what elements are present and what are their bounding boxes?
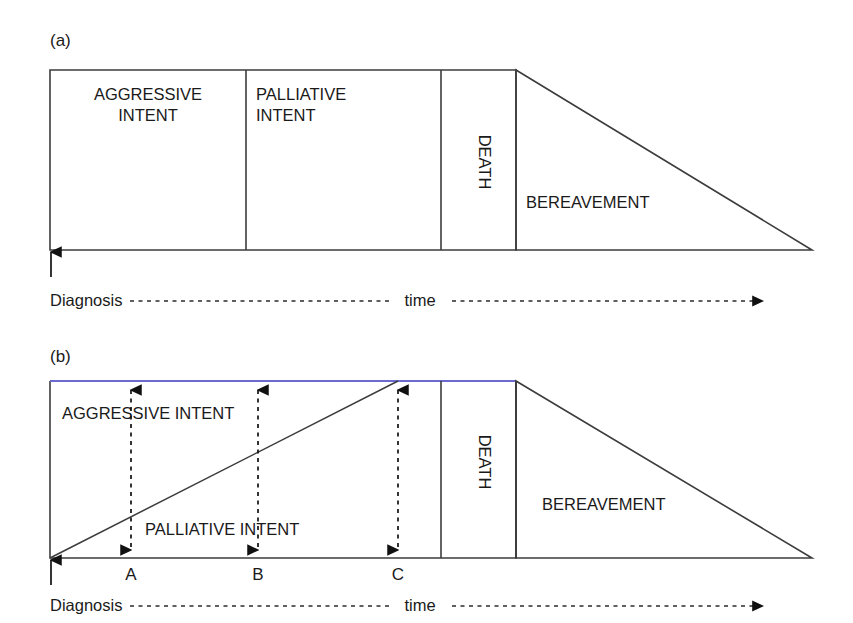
panel-a-bereavement-label: BEREAVEMENT <box>526 193 649 211</box>
panel-b-diagnosis-label: Diagnosis <box>50 596 122 614</box>
panel-b-marker-label-B: B <box>252 565 263 584</box>
panel-a-death-label: DEATH <box>476 135 494 190</box>
panel-a-label: (a) <box>50 31 71 50</box>
figure-root: (a) AGGRESSIVE INTENT PALLIATIVE INTENT … <box>0 0 853 623</box>
panel-a-aggressive-line1: AGGRESSIVE <box>94 85 202 103</box>
panel-a-bereavement-triangle <box>516 70 812 250</box>
panel-a-time-label: time <box>404 291 435 309</box>
panel-a-aggressive-line2: INTENT <box>118 106 178 124</box>
panel-b-time-label: time <box>404 596 435 614</box>
panel-a-palliative-line1: PALLIATIVE <box>256 85 346 103</box>
panel-b: (b) AGGRESSIVE INTENT PALLIATIVE INTENT … <box>50 347 812 614</box>
panel-b-bereavement-triangle <box>516 381 812 558</box>
panel-b-label: (b) <box>50 347 71 366</box>
panel-b-marker-label-C: C <box>392 565 404 584</box>
panel-a-palliative-line2: INTENT <box>256 106 316 124</box>
panel-a-diagnosis-label: Diagnosis <box>50 291 122 309</box>
panel-b-bereavement-label: BEREAVEMENT <box>542 495 665 513</box>
panel-b-death-label: DEATH <box>476 435 494 490</box>
panel-b-palliative-label: PALLIATIVE INTENT <box>145 520 299 538</box>
panel-b-aggressive-label: AGGRESSIVE INTENT <box>62 404 234 422</box>
panel-b-marker-label-A: A <box>125 565 137 584</box>
trajectory-diagram: (a) AGGRESSIVE INTENT PALLIATIVE INTENT … <box>0 0 853 623</box>
panel-a: (a) AGGRESSIVE INTENT PALLIATIVE INTENT … <box>50 31 812 309</box>
